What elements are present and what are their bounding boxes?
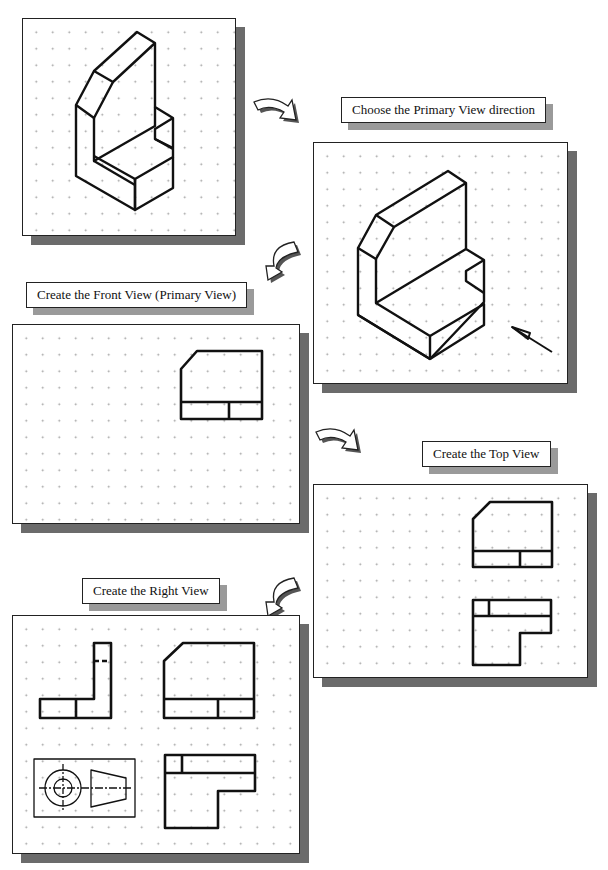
top-view-outline bbox=[165, 755, 255, 828]
step-label-top-view: Create the Top View bbox=[422, 441, 551, 467]
curved-arrow-right-icon bbox=[310, 416, 366, 456]
projection-symbol-icon bbox=[34, 759, 135, 817]
curved-arrow-left-icon bbox=[256, 572, 306, 620]
isometric-object-drawing bbox=[23, 19, 235, 235]
three-view-drawing bbox=[13, 616, 299, 853]
front-view-panel bbox=[12, 324, 300, 524]
top-view-panel bbox=[313, 484, 588, 678]
isometric-panel bbox=[22, 18, 236, 236]
step-label-primary-direction: Choose the Primary View direction bbox=[341, 97, 546, 123]
primary-direction-panel bbox=[313, 142, 568, 384]
step-label-right-view: Create the Right View bbox=[82, 578, 220, 604]
curved-arrow-right-icon bbox=[248, 86, 304, 126]
step-label-front-view: Create the Front View (Primary View) bbox=[26, 282, 247, 308]
right-view-panel bbox=[12, 615, 300, 854]
front-view-drawing bbox=[13, 325, 299, 523]
top-view-drawing bbox=[314, 485, 587, 677]
front-view-outline bbox=[164, 643, 254, 718]
isometric-object-with-direction bbox=[314, 143, 567, 383]
curved-arrow-left-icon bbox=[256, 236, 306, 284]
